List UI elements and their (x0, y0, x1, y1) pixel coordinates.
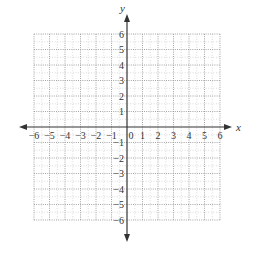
x-tick-label: 5 (202, 130, 207, 141)
x-tick-label: 0 (129, 130, 134, 141)
y-axis-label: y (119, 2, 125, 14)
y-tick-label: −1 (113, 137, 124, 148)
y-tick-label: 1 (119, 106, 124, 117)
y-tick-label: −6 (113, 215, 124, 226)
x-tick-label: 2 (156, 130, 161, 141)
y-tick-label: 6 (119, 29, 124, 40)
x-axis-left-arrow-icon (19, 124, 27, 130)
y-tick-label: −3 (113, 168, 124, 179)
x-tick-label: −2 (91, 130, 102, 141)
y-tick-label: 2 (119, 91, 124, 102)
x-tick-label: −6 (29, 130, 40, 141)
coordinate-plane: xy−6−5−4−3−2−10123456−6−5−4−3−2−1123456 (0, 0, 255, 254)
x-axis-right-arrow-icon (224, 124, 232, 130)
x-tick-label: −3 (75, 130, 86, 141)
x-tick-label: −4 (60, 130, 71, 141)
y-tick-label: −5 (113, 199, 124, 210)
y-tick-label: −4 (113, 184, 124, 195)
x-tick-label: −5 (44, 130, 55, 141)
y-tick-label: 3 (119, 75, 124, 86)
x-tick-label: 6 (218, 130, 223, 141)
y-axis-down-arrow-icon (124, 234, 130, 242)
x-axis-label: x (235, 121, 241, 133)
y-axis-up-arrow-icon (124, 14, 130, 22)
tick-labels: xy−6−5−4−3−2−10123456−6−5−4−3−2−1123456 (29, 2, 241, 226)
x-tick-label: 4 (187, 130, 192, 141)
y-tick-label: 4 (119, 60, 124, 71)
x-tick-label: 3 (171, 130, 176, 141)
y-tick-label: −2 (113, 153, 124, 164)
axes (19, 14, 232, 242)
y-tick-label: 5 (119, 44, 124, 55)
x-tick-label: 1 (140, 130, 145, 141)
